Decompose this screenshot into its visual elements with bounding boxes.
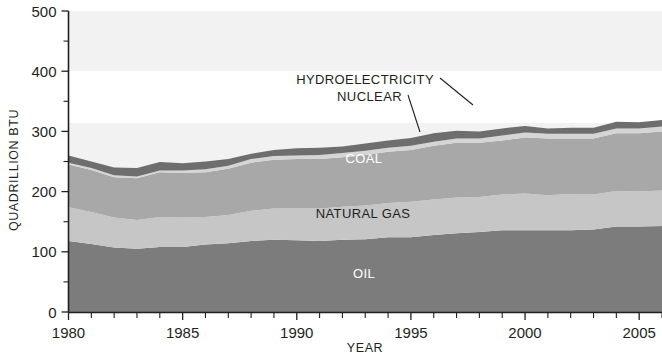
chart-root: 0100200300400500 19801985199019952000200…	[0, 0, 662, 360]
callout-label-nuclear: NUCLEAR	[337, 89, 402, 104]
y-tick-label: 500	[31, 3, 56, 20]
y-tick-label: 300	[31, 123, 56, 140]
y-tick-label: 0	[48, 304, 56, 321]
stacked-area-chart: 0100200300400500 19801985199019952000200…	[0, 0, 662, 360]
y-axis-tick-labels: 0100200300400500	[31, 3, 56, 321]
series-label-natural-gas: NATURAL GAS	[316, 206, 411, 221]
x-tick-label: 1985	[166, 324, 199, 341]
y-tick-label: 200	[31, 183, 56, 200]
x-axis-title: YEAR	[347, 341, 383, 355]
x-axis-tick-labels: 198019851990199520002005	[52, 324, 656, 341]
series-label-oil: OIL	[353, 266, 375, 281]
x-tick-label: 1990	[280, 324, 313, 341]
x-tick-label: 2000	[508, 324, 541, 341]
x-tick-label: 1980	[52, 324, 85, 341]
x-tick-label: 1995	[394, 324, 427, 341]
y-tick-label: 400	[31, 63, 56, 80]
y-axis-title: QUADRILLION BTU	[7, 109, 21, 231]
callout-label-hydroelectricity: HYDROELECTRICITY	[296, 72, 434, 87]
y-axis-ticks	[62, 11, 69, 312]
series-label-coal: COAL	[345, 151, 382, 166]
x-tick-label: 2005	[622, 324, 655, 341]
leader-line-hydroelectricity	[440, 78, 473, 105]
y-tick-label: 100	[31, 243, 56, 260]
